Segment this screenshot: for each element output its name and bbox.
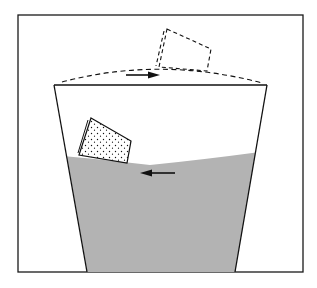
cork-in-glass-diagram: [0, 0, 317, 288]
